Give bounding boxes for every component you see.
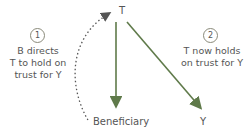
node-trustee: T	[119, 5, 125, 16]
step-2-text: T now holds on trust for Y	[176, 45, 248, 69]
dotted-arrow-beneficiary-to-t	[75, 14, 108, 120]
step-1-text: B directs T to hold on trust for Y	[4, 45, 72, 81]
step-2-badge: 2	[203, 28, 218, 43]
node-third-party: Y	[200, 116, 206, 127]
node-beneficiary: Beneficiary	[93, 116, 149, 127]
step-1-badge: 1	[30, 28, 45, 43]
